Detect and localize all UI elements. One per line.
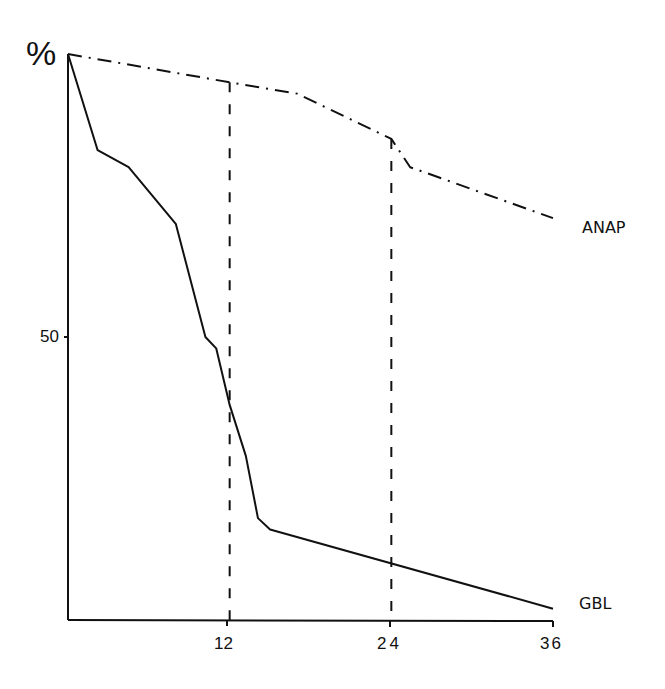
y-unit-label: %	[26, 34, 56, 73]
y-tick-label-50: 50	[40, 327, 59, 347]
series-label-gbl: GBL	[579, 594, 611, 613]
x-tick-label-24: 24	[377, 634, 402, 654]
x-tick-label-36: 36	[540, 634, 563, 654]
series-label-anap: ANAP	[582, 218, 626, 237]
series-line-anap	[68, 54, 553, 218]
x-tick-label-12: 12	[214, 634, 233, 654]
line-chart	[0, 0, 665, 689]
series-line-gbl	[68, 54, 553, 609]
x-axis	[68, 620, 553, 621]
